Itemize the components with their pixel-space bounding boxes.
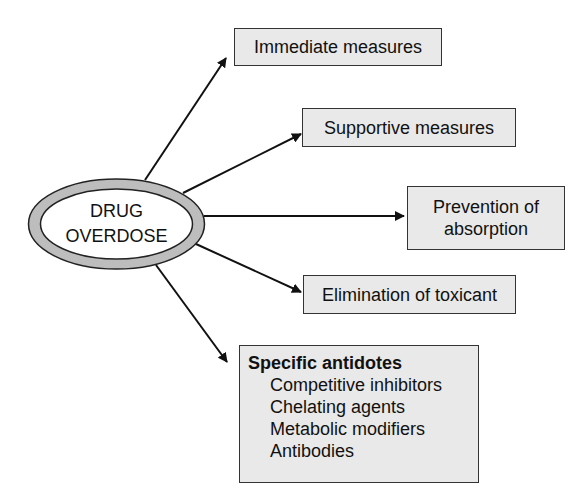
- arrow-immediate: [145, 58, 226, 180]
- node-label: Supportive measures: [324, 117, 494, 139]
- node-immediate-measures: Immediate measures: [234, 28, 442, 66]
- node-supportive-measures: Supportive measures: [302, 108, 516, 147]
- node-prevention-of-absorption: Prevention of absorption: [407, 186, 565, 250]
- antidote-item: Chelating agents: [248, 396, 470, 418]
- node-label-line-2: absorption: [444, 218, 528, 240]
- antidotes-title: Specific antidotes: [248, 352, 470, 374]
- antidote-item: Antibodies: [248, 440, 470, 462]
- node-label: Elimination of toxicant: [322, 284, 497, 306]
- node-elimination-of-toxicant: Elimination of toxicant: [303, 275, 516, 314]
- antidote-item: Competitive inhibitors: [248, 374, 470, 396]
- arrow-elimination: [196, 244, 301, 292]
- antidote-item: Metabolic modifiers: [248, 418, 470, 440]
- arrow-antidotes: [156, 265, 227, 362]
- center-node-label: DRUG OVERDOSE: [28, 179, 205, 269]
- node-label: Immediate measures: [254, 36, 422, 58]
- node-label-line-1: Prevention of: [433, 196, 539, 218]
- node-specific-antidotes: Specific antidotes Competitive inhibitor…: [239, 345, 479, 483]
- center-line-2: OVERDOSE: [65, 224, 167, 249]
- center-line-1: DRUG: [90, 199, 143, 224]
